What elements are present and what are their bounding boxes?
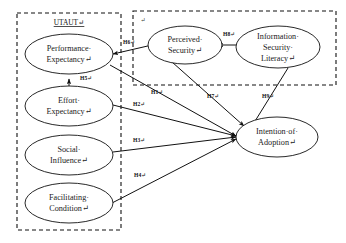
facilitating-condition-label-line1: Facilitating· — [49, 193, 89, 202]
intention-of-adoption-label-line1: Intention·of· — [256, 127, 298, 136]
effort-expectancy-label-line1: Effort· — [58, 96, 80, 105]
hypothesis-label-h3: H3↵ — [133, 137, 145, 143]
node-effort-expectancy[interactable]: Effort· Expectancy↵ — [25, 86, 113, 126]
node-facilitating-condition[interactable]: Facilitating· Condition↵ — [25, 183, 113, 223]
link-h2 — [113, 105, 236, 136]
performance-expectancy-label-line2: Expectancy↵ — [46, 55, 91, 64]
facilitating-condition-label-line2: Condition↵ — [49, 204, 89, 213]
node-intention-of-adoption[interactable]: Intention·of· Adoption↵ — [236, 117, 318, 157]
social-influence-label-line2: Influence↵ — [50, 156, 88, 165]
perceived-security-label-line2: Security↵ — [168, 46, 202, 55]
intention-of-adoption-label-line2: Adoption↵ — [258, 138, 296, 147]
hypothesis-label-h6: H6↵ — [123, 39, 135, 45]
hypothesis-label-h2: H2↵ — [133, 101, 145, 107]
link-h3 — [113, 137, 236, 152]
security-group-label: ↵ — [140, 17, 145, 23]
research-model-diagram: UTAUT↵ ↵ Performance· Expectancy↵ — [0, 0, 346, 243]
hypothesis-label-h1: H1↵ — [151, 89, 163, 95]
link-h1 — [110, 65, 236, 136]
hypothesis-label-h8: H8↵ — [223, 31, 235, 37]
information-security-literacy-label-line2: Security· — [263, 43, 293, 52]
diagram-canvas: UTAUT↵ ↵ Performance· Expectancy↵ — [0, 0, 346, 243]
utaut-group-label: UTAUT↵ — [54, 18, 85, 27]
information-security-literacy-label-line1: Information· — [257, 32, 299, 41]
node-performance-expectancy[interactable]: Performance· Expectancy↵ — [25, 34, 113, 74]
node-information-security-literacy[interactable]: Information· Security· Literacy↵ — [236, 26, 320, 68]
node-perceived-security[interactable]: Perceived· Security↵ — [148, 26, 222, 64]
hypothesis-label-h4: H4↵ — [134, 172, 146, 178]
social-influence-label-line1: Social· — [57, 145, 80, 154]
performance-expectancy-label-line1: Performance· — [47, 44, 92, 53]
effort-expectancy-label-line2: Expectancy↵ — [46, 107, 91, 116]
link-h4 — [112, 139, 236, 203]
information-security-literacy-label-line3: Literacy↵ — [261, 54, 295, 63]
hypothesis-label-h7: H7↵ — [207, 93, 219, 99]
perceived-security-label-line1: Perceived· — [167, 35, 202, 44]
hypothesis-label-h9: H9↵ — [262, 93, 274, 99]
hypothesis-label-h5: H5↵ — [80, 75, 92, 81]
node-social-influence[interactable]: Social· Influence↵ — [25, 135, 113, 175]
